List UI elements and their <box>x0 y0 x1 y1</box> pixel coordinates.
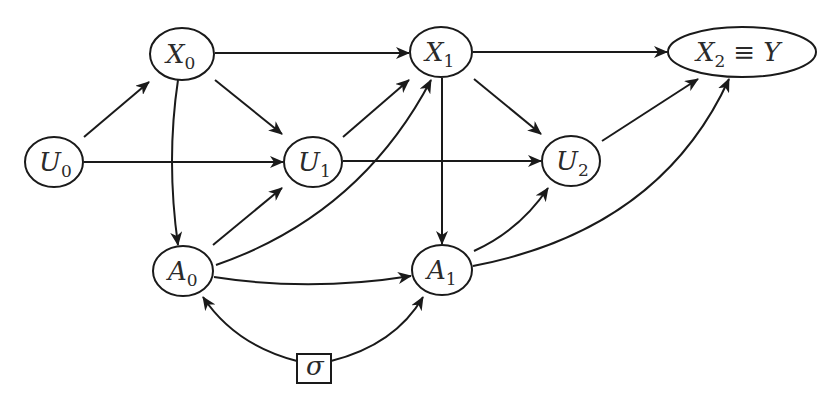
node-x2-y: X2≡Y <box>668 27 816 77</box>
node-sigma: σ <box>297 351 331 383</box>
edge-sigma-a1 <box>331 297 423 361</box>
node-u1: U1 <box>284 137 342 187</box>
edge-a0-a1 <box>214 276 411 284</box>
edge-a1-x2 <box>473 79 729 266</box>
node-x1: X1 <box>410 27 472 77</box>
edge-u0-x0 <box>84 82 149 137</box>
node-a1: A1 <box>412 245 472 295</box>
node-x0: X0 <box>150 28 214 80</box>
node-u0: U0 <box>25 137 83 187</box>
edge-x0-u1 <box>215 80 282 134</box>
edge-u1-x1 <box>343 80 409 137</box>
edge-a0-u1 <box>213 188 282 245</box>
edge-a1-u2 <box>474 188 548 251</box>
edges <box>84 52 729 361</box>
node-sigma-label: σ <box>306 351 325 381</box>
edge-u2-x2 <box>602 79 698 141</box>
node-a0: A0 <box>153 246 213 296</box>
node-x2-label: X2≡Y <box>694 37 783 71</box>
causal-diagram: X0 U0 U1 X1 X2≡Y U2 A0 A1 σ <box>0 0 829 402</box>
edge-sigma-a0 <box>203 297 297 361</box>
edge-x1-u2 <box>474 79 541 134</box>
node-u2: U2 <box>542 136 600 186</box>
